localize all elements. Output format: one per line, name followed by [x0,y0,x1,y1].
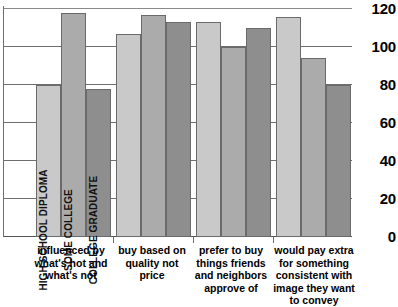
y-tick-label-20: 20 [352,190,396,207]
x-tick-1 [113,237,114,243]
bar-quality-high-school-diploma[interactable] [116,34,141,237]
bar-quality-some-college[interactable] [141,15,166,237]
category-label-friends-line-3: and neighbors [186,269,276,282]
bar-friends-college-graduate[interactable] [246,28,271,237]
category-label-influenced-line-1: influenced by [26,244,116,257]
category-label-friends-line-1: prefer to buy [186,244,276,257]
bar-friends-some-college[interactable] [221,47,246,237]
category-label-pay-extra-line-2: for something [266,257,362,270]
category-label-pay-extra-line-3: consistent with [266,269,362,282]
bar-group-influenced: HIGH SCHOOL DIPLOMA SOME COLLEGE COLLEGE… [36,6,112,237]
bar-quality-college-graduate[interactable] [166,22,191,237]
bar-group-pay-extra [276,6,352,237]
category-label-friends-line-4: approve of [186,282,276,295]
category-label-quality-line-2: quality not [108,257,196,270]
bar-influenced-some-college[interactable]: SOME COLLEGE [61,13,86,237]
category-label-quality: buy based on quality not price [108,244,196,282]
category-label-pay-extra: would pay extra for something consistent… [266,244,362,307]
category-label-pay-extra-line-4: image they want [266,282,362,295]
y-tick-label-100: 100 [352,38,396,55]
y-tick-label-40: 40 [352,152,396,169]
bar-group-friends-approve [196,6,272,237]
bar-pay-extra-high-school-diploma[interactable] [276,17,301,237]
y-tick-label-120: 120 [352,0,396,17]
category-label-influenced: influenced by what's hot and what's not [26,244,116,282]
y-tick-label-60: 60 [352,114,396,131]
bar-pay-extra-college-graduate[interactable] [326,85,351,237]
bar-group-quality [116,6,192,237]
category-label-influenced-line-2: what's hot and [26,257,116,270]
y-axis-line [3,6,4,237]
category-label-pay-extra-line-1: would pay extra [266,244,362,257]
bar-influenced-high-school-diploma[interactable]: HIGH SCHOOL DIPLOMA [36,85,61,237]
bar-friends-high-school-diploma[interactable] [196,22,221,237]
category-label-pay-extra-line-5: to convey [266,294,362,307]
y-tick-label-0: 0 [352,228,396,245]
category-label-quality-line-3: price [108,269,196,282]
x-tick-2 [193,237,194,243]
bar-pay-extra-some-college[interactable] [301,58,326,237]
x-tick-3 [273,237,274,243]
category-label-influenced-line-3: what's not [26,269,116,282]
bar-influenced-college-graduate[interactable]: COLLEGE GRADUATE [86,89,111,237]
y-tick-label-80: 80 [352,76,396,93]
category-label-friends-approve: prefer to buy things friends and neighbo… [186,244,276,294]
plot-area: HIGH SCHOOL DIPLOMA SOME COLLEGE COLLEGE… [3,6,352,237]
category-label-friends-line-2: things friends [186,257,276,270]
category-label-quality-line-1: buy based on [108,244,196,257]
